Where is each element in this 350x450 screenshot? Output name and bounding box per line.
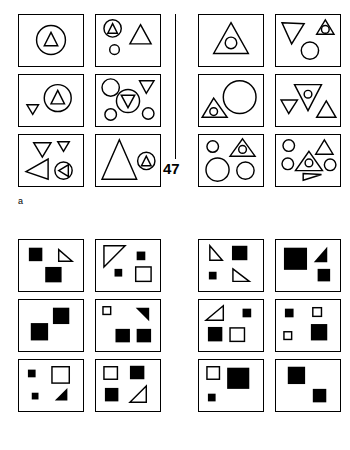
stimulus-cell: [275, 359, 341, 412]
stimulus-cell: [95, 359, 161, 412]
stimulus-cell: [198, 239, 264, 292]
stimulus-cell: [95, 134, 161, 187]
stimulus-cell: [198, 359, 264, 412]
stimulus-cell: [275, 74, 341, 127]
stimulus-cell: [18, 299, 84, 352]
stimulus-cell: [95, 74, 161, 127]
stimulus-cell: [198, 134, 264, 187]
panel-a: 47 a: [0, 0, 350, 225]
stimulus-cell: [198, 74, 264, 127]
panel-b: 58 b: [0, 225, 350, 450]
stimulus-cell: [95, 239, 161, 292]
stimulus-cell: [18, 14, 84, 67]
stimulus-cell: [275, 239, 341, 292]
stimulus-cell: [18, 74, 84, 127]
stimulus-cell: [18, 134, 84, 187]
stimulus-cell: [198, 299, 264, 352]
panel-a-page-number: 47: [163, 160, 180, 177]
stimulus-cell: [275, 134, 341, 187]
stimulus-cell: [95, 299, 161, 352]
stimulus-cell: [275, 14, 341, 67]
stimulus-cell: [198, 14, 264, 67]
panel-a-divider: [175, 14, 176, 159]
stimulus-cell: [18, 239, 84, 292]
figure: 47 a: [0, 0, 350, 450]
panel-a-label: a: [18, 196, 23, 206]
stimulus-cell: [18, 359, 84, 412]
stimulus-cell: [95, 14, 161, 67]
stimulus-cell: [275, 299, 341, 352]
